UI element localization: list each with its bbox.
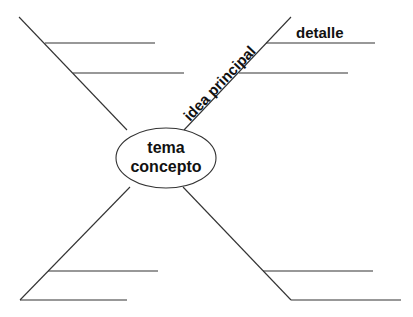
branch-line	[20, 187, 130, 300]
center-label-line2: concepto	[130, 158, 201, 175]
branch-bottom-right	[183, 187, 401, 300]
branch-bottom-left	[20, 187, 158, 300]
branch-label: idea principal	[180, 42, 259, 124]
spider-map-diagram: tema concepto idea principal detalle	[0, 0, 413, 317]
branch-top-left	[19, 17, 184, 130]
detail-label: detalle	[296, 24, 344, 41]
branch-line	[183, 187, 291, 300]
center-label-line1: tema	[147, 139, 184, 156]
branch-top-right: idea principal detalle	[180, 17, 375, 130]
